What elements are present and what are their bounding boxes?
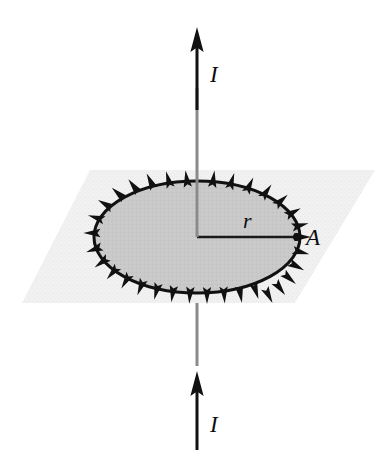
physics-diagram-figure: I I r A xyxy=(0,0,383,468)
point-dot-icon xyxy=(293,233,301,241)
current-label-top: I xyxy=(209,62,219,87)
point-a-label: A xyxy=(304,225,321,250)
radius-label: r xyxy=(243,208,252,233)
diagram-canvas: I I r A xyxy=(0,0,383,468)
current-label-bottom: I xyxy=(209,412,219,437)
